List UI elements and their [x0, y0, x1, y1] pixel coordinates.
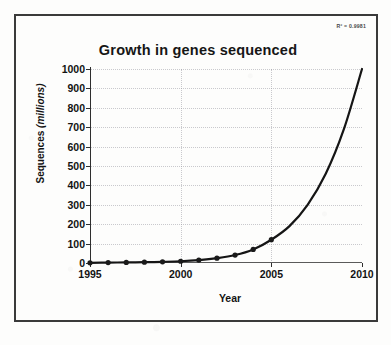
y-tick-label: 300 — [67, 200, 85, 211]
plot-area: 01002003004005006007008009001000 1995200… — [90, 69, 362, 263]
y-tick-label: 600 — [67, 141, 85, 152]
chart-title: Growth in genes sequenced — [16, 42, 380, 58]
y-tick-label: 500 — [67, 161, 85, 172]
x-tick-label: 2005 — [260, 269, 283, 280]
x-axis-title: Year — [90, 292, 370, 304]
y-tick-label: 0 — [79, 258, 85, 269]
trendline-path — [90, 69, 362, 263]
x-tick-label: 1995 — [78, 269, 101, 280]
data-point-marker — [160, 259, 165, 264]
data-point-marker — [269, 237, 274, 242]
x-tick-label: 2000 — [169, 269, 192, 280]
y-axis-title: Sequences (millions) — [35, 64, 46, 204]
y-tick-label: 900 — [67, 83, 85, 94]
chart-frame: R² = 0.9981 Growth in genes sequenced Se… — [14, 14, 378, 322]
data-point-marker — [214, 256, 219, 261]
data-point-marker — [196, 257, 201, 262]
data-point-marker — [178, 259, 183, 264]
y-tick-label: 400 — [67, 180, 85, 191]
y-axis-title-unit: (millions) — [35, 83, 46, 127]
y-tick-label: 100 — [67, 238, 85, 249]
data-point-marker — [251, 247, 256, 252]
x-tick-mark — [271, 263, 272, 267]
data-series-svg — [90, 69, 362, 263]
x-tick-label: 2010 — [350, 269, 373, 280]
y-tick-label: 700 — [67, 122, 85, 133]
data-point-marker — [106, 260, 111, 265]
data-point-marker — [232, 252, 237, 257]
y-tick-label: 800 — [67, 103, 85, 114]
y-axis-title-main: Sequences — [35, 128, 46, 184]
y-tick-label: 200 — [67, 219, 85, 230]
chart-page: R² = 0.9981 Growth in genes sequenced Se… — [0, 0, 391, 345]
r-squared-annotation: R² = 0.9981 — [337, 23, 366, 29]
x-tick-mark — [362, 263, 363, 267]
data-point-marker — [142, 260, 147, 265]
data-point-marker — [87, 260, 92, 265]
data-point-marker — [124, 260, 129, 265]
y-tick-label: 1000 — [62, 64, 85, 75]
